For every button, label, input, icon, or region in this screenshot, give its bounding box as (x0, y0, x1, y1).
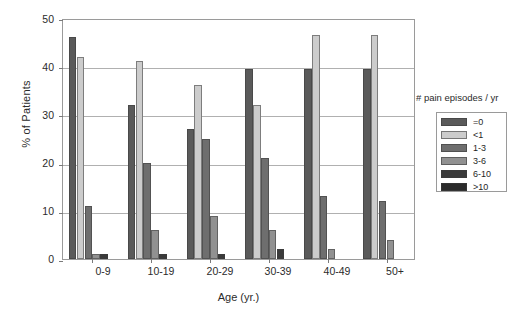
y-axis-tick-label: 50 (26, 14, 54, 24)
y-axis-tick-mark (59, 261, 63, 262)
bar-group (357, 20, 416, 259)
bar (85, 206, 93, 259)
bar-series-container (63, 20, 414, 259)
bar (371, 35, 379, 259)
legend-item[interactable]: 6-10 (441, 168, 506, 180)
bar (202, 139, 210, 260)
legend-swatch (441, 157, 467, 165)
legend-title: # pain episodes / yr (416, 92, 498, 103)
bar (100, 254, 108, 259)
x-axis-tick-mark (210, 259, 211, 263)
bar (143, 163, 151, 259)
bar (218, 254, 226, 259)
legend-item[interactable]: <1 (441, 129, 506, 141)
bar (328, 249, 336, 259)
y-axis-tick-label: 0 (26, 254, 54, 264)
y-axis-tick-label: 20 (26, 158, 54, 168)
bar (210, 216, 218, 259)
legend-swatch (441, 144, 467, 152)
y-axis-tick-label: 30 (26, 110, 54, 120)
bar-group (122, 20, 181, 259)
bar (261, 158, 269, 259)
plot-area (62, 19, 415, 260)
bar-group (63, 20, 122, 259)
x-axis-tick-label: 30-39 (248, 265, 308, 277)
legend-item[interactable]: 3-6 (441, 155, 506, 167)
legend-swatch (441, 183, 467, 191)
x-axis-tick-label: 0-9 (73, 265, 133, 277)
legend-swatch (441, 131, 467, 139)
legend-item-label: 3-6 (473, 156, 486, 166)
legend-item-label: >10 (473, 182, 488, 192)
bar (77, 57, 85, 259)
legend-item-label: 1-3 (473, 143, 486, 153)
x-axis-title: Age (yr.) (62, 291, 415, 303)
x-axis-tick-label: 40-49 (307, 265, 367, 277)
bar (136, 61, 144, 259)
legend-item-label: =0 (473, 117, 483, 127)
bar (312, 35, 320, 259)
bar (159, 254, 167, 259)
x-axis-tick-mark (269, 259, 270, 263)
bar (69, 37, 77, 259)
bar (151, 230, 159, 259)
bar-group (181, 20, 240, 259)
bar (387, 240, 395, 259)
x-axis-tick-mark (151, 259, 152, 263)
legend-swatch (441, 170, 467, 178)
x-axis-tick-mark (328, 259, 329, 263)
x-axis-tick-label: 50+ (365, 265, 425, 277)
x-axis-tick-label: 20-29 (190, 265, 250, 277)
legend-swatch (441, 118, 467, 126)
bar (379, 201, 387, 259)
legend-item-label: <1 (473, 130, 483, 140)
bar (320, 196, 328, 259)
x-axis-tick-mark (92, 259, 93, 263)
bar (187, 129, 195, 259)
legend-item-label: 6-10 (473, 169, 491, 179)
bar (194, 85, 202, 259)
bar (363, 69, 371, 259)
x-axis-tick-mark (387, 259, 388, 263)
bar-chart-figure: % of Patients 50 40 30 20 10 0 0-9 10-19… (0, 0, 513, 316)
legend-box: =0<11-33-66-10>10 (436, 112, 507, 192)
legend-item[interactable]: >10 (441, 181, 506, 193)
bar (128, 105, 136, 259)
y-axis-tick-label: 10 (26, 206, 54, 216)
bar (269, 230, 277, 259)
y-axis-tick-label: 40 (26, 62, 54, 72)
bar (304, 69, 312, 259)
legend-item[interactable]: =0 (441, 116, 506, 128)
bar (245, 69, 253, 259)
bar (277, 249, 285, 259)
bar-group (298, 20, 357, 259)
legend-item[interactable]: 1-3 (441, 142, 506, 154)
x-axis-tick-label: 10-19 (131, 265, 191, 277)
bar (92, 254, 100, 259)
bar-group (240, 20, 299, 259)
bar (253, 105, 261, 259)
